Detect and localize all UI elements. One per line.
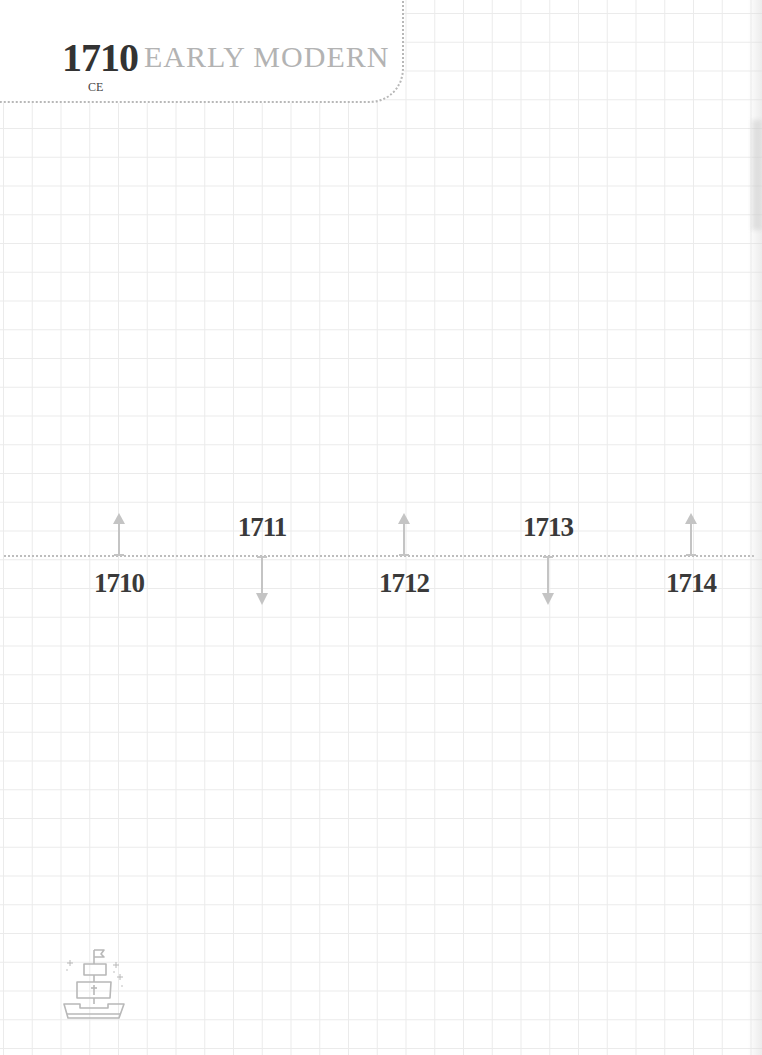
- event-year-label: 1712: [354, 568, 454, 599]
- arrow-down-icon: [256, 556, 268, 605]
- arrow-up-icon: [685, 513, 697, 556]
- event-year-label: 1711: [212, 512, 312, 543]
- event-year-label: 1710: [69, 568, 169, 599]
- arrow-up-icon: [113, 513, 125, 556]
- sailing-ship-icon: [58, 946, 130, 1024]
- event-year-label: 1713: [498, 512, 598, 543]
- arrow-up-icon: [398, 513, 410, 556]
- header-year: 1710: [62, 34, 138, 81]
- header-era-suffix: CE: [88, 80, 103, 95]
- arrow-down-icon: [542, 556, 554, 605]
- page-header: 1710 EARLY MODERN CE: [0, 0, 404, 103]
- header-period: EARLY MODERN: [144, 40, 389, 74]
- page-edge-shadow: [748, 0, 762, 1055]
- event-year-label: 1714: [641, 568, 741, 599]
